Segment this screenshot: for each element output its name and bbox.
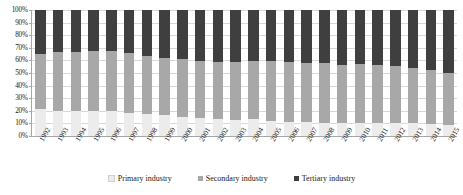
bar-segment-tertiary[interactable] [426,10,437,70]
bar-column[interactable] [248,10,259,136]
bar-column[interactable] [443,10,454,136]
bar-column[interactable] [372,10,383,136]
bar-segment-secondary[interactable] [88,51,99,110]
x-axis-label-slot: 1999 [158,137,169,171]
bar-segment-secondary[interactable] [230,62,241,120]
bar-column[interactable] [426,10,437,136]
bar-segment-secondary[interactable] [319,63,330,123]
bar-segment-tertiary[interactable] [337,10,348,65]
bar-segment-tertiary[interactable] [230,10,241,62]
bar-segment-secondary[interactable] [35,54,46,109]
bar-column[interactable] [124,10,135,136]
bar-segment-tertiary[interactable] [248,10,259,61]
y-axis-tick-label: 10% [15,119,28,127]
bar-column[interactable] [159,10,170,136]
bar-column[interactable] [266,10,277,136]
bar-segment-tertiary[interactable] [355,10,366,64]
bar-segment-secondary[interactable] [53,52,64,111]
bar-segment-tertiary[interactable] [443,10,454,73]
legend-swatch-icon [294,176,299,181]
bar-segment-tertiary[interactable] [390,10,401,66]
bar-segment-tertiary[interactable] [106,10,117,51]
bar-column[interactable] [337,10,348,136]
y-axis-tick-label: 70% [15,44,28,52]
bar-segment-tertiary[interactable] [213,10,224,62]
x-axis-label-slot: 1995 [87,137,98,171]
legend-swatch-icon [198,176,203,181]
bar-segment-tertiary[interactable] [266,10,277,61]
bar-segment-secondary[interactable] [213,62,224,118]
y-axis-tick-label: 20% [15,107,28,115]
bar-segment-tertiary[interactable] [159,10,170,58]
bar-column[interactable] [35,10,46,136]
bar-column[interactable] [88,10,99,136]
bar-segment-secondary[interactable] [443,73,454,125]
bar-column[interactable] [142,10,153,136]
legend-item[interactable]: Tertiary industry [294,174,355,183]
bar-segment-tertiary[interactable] [408,10,419,68]
bar-segment-tertiary[interactable] [195,10,206,61]
bar-segment-secondary[interactable] [248,61,259,119]
y-axis-tick-label: 100% [12,6,28,14]
bar-column[interactable] [195,10,206,136]
x-axis-label-slot: 2014 [425,137,436,171]
bar-column[interactable] [355,10,366,136]
y-axis-tick-label: 50% [15,69,28,77]
bar-segment-secondary[interactable] [195,61,206,118]
bar-segment-secondary[interactable] [337,65,348,123]
y-axis: 0%10%20%30%40%50%60%70%80%90%100% [0,0,30,145]
bar-column[interactable] [213,10,224,136]
x-axis-label-slot: 2004 [247,137,258,171]
bar-segment-tertiary[interactable] [177,10,188,59]
plot-wrapper: 0%10%20%30%40%50%60%70%80%90%100% [0,0,463,145]
bar-segment-secondary[interactable] [142,56,153,114]
y-axis-tick-label: 80% [15,31,28,39]
bar-segment-tertiary[interactable] [372,10,383,65]
bar-segment-secondary[interactable] [284,62,295,122]
bar-segment-secondary[interactable] [159,58,170,116]
x-axis-label-slot: 2000 [176,137,187,171]
bar-segment-tertiary[interactable] [142,10,153,56]
x-axis: 1992199319941995199619971998199920002001… [31,137,456,171]
x-axis-label-slot: 1992 [34,137,45,171]
bar-column[interactable] [390,10,401,136]
bar-column[interactable] [53,10,64,136]
legend-swatch-icon [108,175,115,182]
bar-segment-secondary[interactable] [301,63,312,123]
bar-segment-secondary[interactable] [426,70,437,124]
bar-segment-secondary[interactable] [408,68,419,123]
bar-column[interactable] [319,10,330,136]
bar-segment-secondary[interactable] [124,53,135,113]
y-axis-tick-label: 0% [19,132,28,140]
bar-column[interactable] [301,10,312,136]
bar-segment-secondary[interactable] [372,65,383,124]
bar-segment-tertiary[interactable] [71,10,82,52]
bar-segment-secondary[interactable] [266,61,277,121]
bar-segment-secondary[interactable] [106,51,117,111]
x-axis-label-slot: 2006 [283,137,294,171]
bar-column[interactable] [177,10,188,136]
bar-segment-tertiary[interactable] [319,10,330,63]
legend-item[interactable]: Primary industry [108,174,172,183]
bar-column[interactable] [71,10,82,136]
bar-segment-secondary[interactable] [177,59,188,117]
chart-legend: Primary industrySecondary industryTertia… [0,174,463,183]
bar-segment-secondary[interactable] [71,52,82,111]
bar-segment-tertiary[interactable] [124,10,135,53]
bar-column[interactable] [408,10,419,136]
legend-item[interactable]: Secondary industry [198,174,268,183]
bar-segment-secondary[interactable] [355,64,366,123]
bar-segment-tertiary[interactable] [53,10,64,52]
bar-column[interactable] [284,10,295,136]
bar-segment-tertiary[interactable] [35,10,46,54]
bar-segment-tertiary[interactable] [88,10,99,51]
bar-segment-tertiary[interactable] [301,10,312,63]
bar-column[interactable] [230,10,241,136]
bar-column[interactable] [106,10,117,136]
x-axis-label-slot: 2012 [389,137,400,171]
x-axis-label-slot: 2009 [336,137,347,171]
bar-segment-tertiary[interactable] [284,10,295,62]
legend-label: Tertiary industry [302,174,355,183]
x-axis-label-slot: 2007 [300,137,311,171]
bar-segment-secondary[interactable] [390,66,401,123]
